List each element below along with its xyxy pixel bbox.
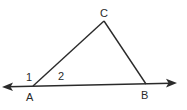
side-ac [33,21,104,86]
angle-label-2: 2 [58,70,64,82]
vertex-label-c: C [100,7,108,19]
side-cb [104,21,146,84]
vertex-label-b: B [141,89,148,101]
line-ab [8,83,171,87]
triangle-diagram: C A B 1 2 [0,0,187,110]
vertex-label-a: A [26,91,34,103]
angle-label-1: 1 [26,71,32,83]
